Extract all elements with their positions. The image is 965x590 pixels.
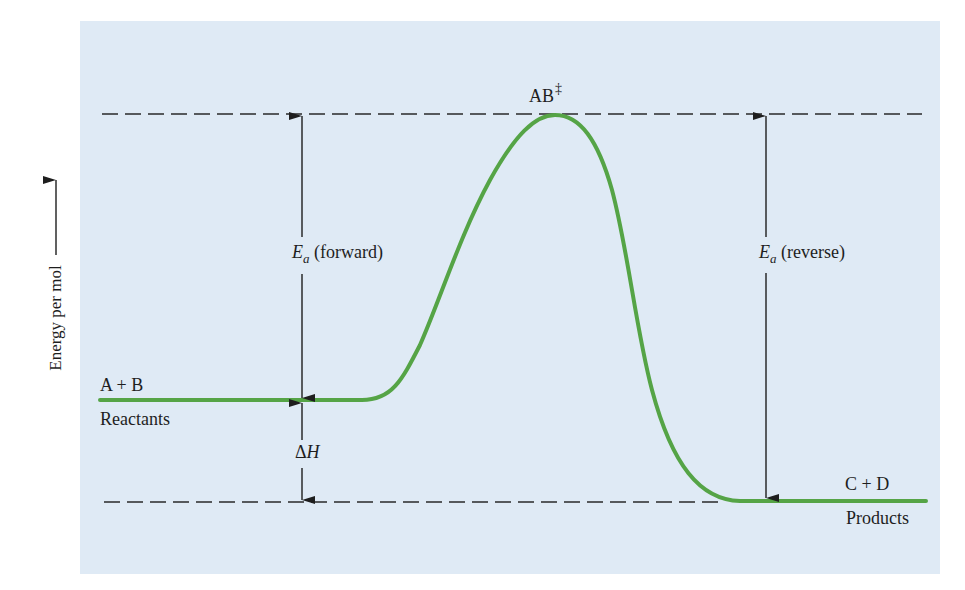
transition-state-label: AB‡ bbox=[529, 87, 562, 105]
reactants-formula: A + B bbox=[100, 376, 143, 394]
energy-diagram bbox=[0, 0, 965, 590]
y-axis-label: Energy per mol bbox=[46, 265, 66, 370]
ea-forward-label: Ea (forward) bbox=[292, 243, 383, 261]
delta-h-label: ΔH bbox=[295, 443, 320, 461]
products-name: Products bbox=[846, 509, 909, 527]
ea-reverse-label: Ea (reverse) bbox=[759, 243, 845, 261]
reactants-name: Reactants bbox=[100, 410, 170, 428]
double-dagger-mark: ‡ bbox=[555, 81, 562, 96]
products-formula: C + D bbox=[845, 475, 889, 493]
energy-curve bbox=[100, 115, 926, 501]
